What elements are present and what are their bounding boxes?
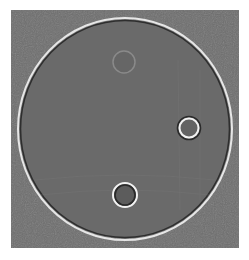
- insert-top: [113, 51, 135, 73]
- phantom-image: [0, 0, 249, 260]
- insert-right: [180, 119, 199, 138]
- insert-bottom: [113, 183, 137, 207]
